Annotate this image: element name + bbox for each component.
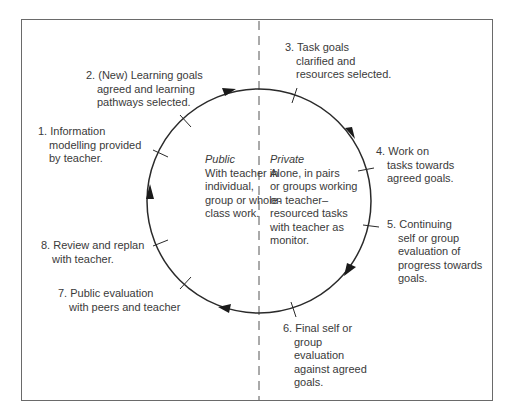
step-text: evaluation of xyxy=(387,245,482,259)
private-zone-line: or groups working xyxy=(270,180,357,194)
step-text: group xyxy=(283,336,367,350)
step-text: Public evaluation xyxy=(70,287,153,299)
step-6-label: 6. Final self or group evaluation agains… xyxy=(283,322,367,390)
step-number: 7. xyxy=(58,287,67,301)
step-text: Information xyxy=(50,125,105,137)
step-number: 4. xyxy=(376,145,385,159)
private-zone: Private Alone, in pairs or groups workin… xyxy=(270,153,357,248)
step-number: 2. xyxy=(86,69,95,83)
step-3-label: 3. Task goals clarified and resources se… xyxy=(285,41,391,82)
private-zone-line: resourced tasks xyxy=(270,207,357,221)
step-text: progress towards xyxy=(387,259,482,273)
step-text: tasks towards xyxy=(376,159,454,173)
step-text: goals. xyxy=(387,272,482,286)
tick-step-5 xyxy=(363,225,379,227)
step-1-label: 1. Information modelling provided by tea… xyxy=(38,125,141,166)
step-text: pathways selected. xyxy=(86,96,203,110)
step-8-label: 8. Review and replan with teacher. xyxy=(41,239,144,266)
step-text: agreed goals. xyxy=(376,172,454,186)
step-text: Continuing xyxy=(399,218,452,230)
step-text: clarified and xyxy=(285,55,391,69)
step-text: with teacher. xyxy=(41,253,144,267)
step-text: evaluation xyxy=(283,349,367,363)
step-number: 1. xyxy=(38,125,47,139)
step-text: Final self or xyxy=(295,322,352,334)
step-text: Work on xyxy=(388,145,429,157)
step-number: 6. xyxy=(283,322,292,336)
step-text: self or group xyxy=(387,232,482,246)
step-text: (New) Learning goals xyxy=(98,69,203,81)
step-text: agreed and learning xyxy=(86,83,203,97)
step-text: resources selected. xyxy=(285,68,391,82)
step-text: against agreed xyxy=(283,363,367,377)
step-text: with peers and teacher xyxy=(58,301,180,315)
step-text: by teacher. xyxy=(38,152,141,166)
step-5-label: 5. Continuing self or group evaluation o… xyxy=(387,218,482,286)
step-text: modelling provided xyxy=(38,139,141,153)
private-zone-line: on teacher– xyxy=(270,194,357,208)
step-4-label: 4. Work on tasks towards agreed goals. xyxy=(376,145,454,186)
private-zone-title: Private xyxy=(270,153,357,167)
private-zone-line: with teacher as xyxy=(270,221,357,235)
step-text: Task goals xyxy=(297,41,349,53)
arrow-icon xyxy=(344,263,356,276)
arrow-icon xyxy=(345,127,355,139)
step-text: goals. xyxy=(283,376,367,390)
step-text: Review and replan xyxy=(53,239,144,251)
step-7-label: 7. Public evaluation with peers and teac… xyxy=(58,287,180,314)
tick-step-6 xyxy=(291,302,296,317)
step-number: 5. xyxy=(387,218,396,232)
private-zone-line: monitor. xyxy=(270,234,357,248)
step-number: 3. xyxy=(285,41,294,55)
tick-step-1 xyxy=(153,150,168,157)
step-number: 8. xyxy=(41,239,50,253)
private-zone-line: Alone, in pairs xyxy=(270,167,357,181)
step-2-label: 2. (New) Learning goals agreed and learn… xyxy=(86,69,203,110)
